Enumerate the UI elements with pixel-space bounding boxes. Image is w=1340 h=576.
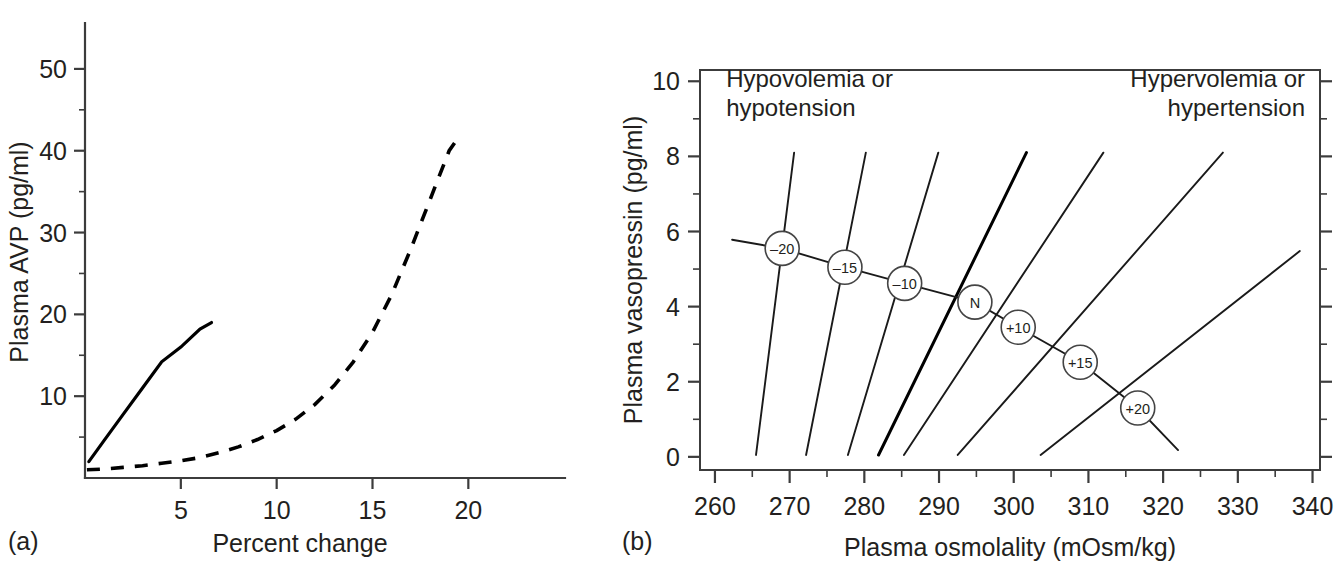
- panel-b-isopleth-lines: [756, 153, 1300, 455]
- panel-a-x-tick-label: 10: [263, 496, 291, 524]
- panel-a-y-tick-label: 50: [39, 55, 67, 83]
- panel-a-x-tick-label: 5: [174, 496, 188, 524]
- panel-b-y-tick-label: 10: [652, 67, 680, 95]
- panel-b-node-label: +15: [1068, 355, 1093, 371]
- figure-container: Plasma AVP (pg/ml) 10203040505101520 Per…: [0, 0, 1340, 576]
- panel-a-series-solid: [89, 323, 212, 462]
- panel-a-tick-labels: 10203040505101520: [39, 55, 482, 524]
- panel-b-label-wrap: (b): [622, 527, 653, 556]
- panel-b-y-tick-label: 2: [666, 368, 680, 396]
- panel-b-annotations: Hypovolemia orhypotensionHypervolemia or…: [726, 65, 1305, 121]
- panel-a-y-tick-label: 30: [39, 219, 67, 247]
- panel-b-node-5: +15: [1063, 345, 1097, 379]
- panel-b-svg: Plasma vasopressin (pg/ml) 0246810260270…: [620, 0, 1340, 576]
- panel-b-node-label: +10: [1006, 320, 1031, 336]
- panel-b-node-3: N: [958, 285, 992, 319]
- panel-b-connector-path: [732, 240, 1178, 450]
- panel-b-x-tick-label: 270: [769, 492, 811, 520]
- panel-b-x-tick-label: 260: [694, 492, 736, 520]
- panel-b-node-label: –10: [893, 276, 917, 292]
- panel-a-label-wrap: (a): [8, 527, 39, 556]
- panel-b-label: (b): [622, 527, 653, 555]
- panel-b-node-1: –15: [828, 250, 862, 284]
- panel-a-y-tick-label: 40: [39, 137, 67, 165]
- top-right-annotation-line1: Hypervolemia or: [1130, 65, 1305, 92]
- top-right-annotation-line2: hypertension: [1168, 94, 1305, 121]
- panel-b-ticks: [688, 81, 1332, 483]
- panel-b-node-label: +20: [1125, 401, 1150, 417]
- panel-a-series-dashed: [87, 134, 461, 469]
- panel-b-x-tick-label: 320: [1142, 492, 1184, 520]
- panel-b-y-tick-label: 6: [666, 218, 680, 246]
- panel-b-node-label: –20: [770, 241, 794, 257]
- panel-a-y-tick-label: 20: [39, 300, 67, 328]
- panel-b-tick-labels: 0246810260270280290300310320330340: [652, 67, 1333, 520]
- top-left-annotation-line1: Hypovolemia or: [726, 65, 893, 92]
- panel-b-isopleth-line-5: [958, 153, 1223, 455]
- panel-b-node-4: +10: [1001, 310, 1035, 344]
- panel-a-x-axis-title: Percent change: [212, 529, 387, 557]
- panel-a: Plasma AVP (pg/ml) 10203040505101520 Per…: [0, 0, 620, 576]
- panel-b-frame: [700, 70, 1320, 470]
- top-left-annotation-line2: hypotension: [726, 94, 855, 121]
- panel-a-x-tick-label: 15: [359, 496, 387, 524]
- panel-b-isopleth-line-2: [848, 153, 938, 455]
- panel-a-y-axis-title-text: Plasma AVP (pg/ml): [5, 141, 33, 362]
- panel-b: Plasma vasopressin (pg/ml) 0246810260270…: [620, 0, 1340, 576]
- panel-a-y-axis-title: Plasma AVP (pg/ml): [5, 141, 33, 362]
- panel-b-isopleth-line-1: [806, 153, 866, 455]
- panel-a-series: [87, 134, 461, 469]
- panel-b-x-tick-label: 310: [1068, 492, 1110, 520]
- panel-a-axes: [85, 23, 565, 478]
- panel-b-x-tick-label: 290: [918, 492, 960, 520]
- panel-b-connector-line: [732, 240, 1178, 450]
- panel-b-y-tick-label: 4: [666, 293, 680, 321]
- panel-a-y-tick-label: 10: [39, 382, 67, 410]
- panel-b-x-tick-label: 340: [1292, 492, 1334, 520]
- panel-b-x-tick-label: 300: [993, 492, 1035, 520]
- panel-a-label: (a): [8, 527, 39, 555]
- panel-b-x-tick-label: 280: [843, 492, 885, 520]
- panel-b-y-tick-label: 0: [666, 443, 680, 471]
- panel-a-x-tick-label: 20: [454, 496, 482, 524]
- panel-b-y-tick-label: 8: [666, 142, 680, 170]
- panel-b-y-axis-title-text: Plasma vasopressin (pg/ml): [620, 116, 647, 424]
- panel-b-node-0: –20: [765, 231, 799, 265]
- panel-b-node-label: N: [970, 295, 980, 311]
- panel-a-ticks: [74, 69, 468, 489]
- panel-a-svg: Plasma AVP (pg/ml) 10203040505101520 Per…: [0, 0, 620, 576]
- panel-b-node-label: –15: [833, 260, 857, 276]
- panel-b-x-axis-title: Plasma osmolality (mOsm/kg): [844, 533, 1176, 561]
- panel-b-isopleth-line-0: [756, 153, 794, 455]
- panel-b-node-6: +20: [1121, 391, 1155, 425]
- panel-b-x-tick-label: 330: [1217, 492, 1259, 520]
- panel-b-y-axis-title: Plasma vasopressin (pg/ml): [620, 116, 647, 424]
- panel-b-node-2: –10: [888, 266, 922, 300]
